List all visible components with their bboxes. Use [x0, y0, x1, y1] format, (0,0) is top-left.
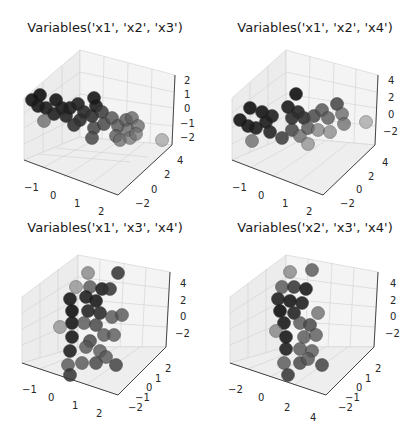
svg-text:0: 0 — [356, 184, 362, 195]
svg-text:−2: −2 — [175, 328, 190, 339]
svg-text:0: 0 — [50, 190, 56, 201]
svg-text:2: 2 — [96, 408, 102, 419]
svg-text:0: 0 — [184, 103, 190, 114]
x-axis-ticks: −1 0 1 2 — [24, 182, 104, 217]
z-axis-ticks: 4 2 0 −2 — [385, 278, 400, 339]
svg-text:0: 0 — [390, 311, 396, 322]
svg-text:−2: −2 — [338, 402, 353, 413]
svg-text:−2: −2 — [135, 198, 150, 209]
svg-text:0: 0 — [356, 382, 362, 393]
svg-text:1: 1 — [72, 400, 78, 411]
svg-text:4: 4 — [382, 157, 388, 168]
subplot-x1-x3-x4: Variables('x1', 'x3', 'x4') — [0, 217, 210, 434]
svg-text:2: 2 — [184, 75, 190, 86]
svg-text:−2: −2 — [128, 402, 143, 413]
svg-text:2: 2 — [388, 92, 394, 103]
svg-text:1: 1 — [74, 198, 80, 209]
z-axis-ticks: 4 2 0 −2 — [175, 278, 190, 339]
svg-text:1: 1 — [282, 198, 288, 209]
plot-3d-axes: 4 2 0 −2 −2 −1 0 1 2 −2 0 2 4 — [210, 217, 420, 434]
svg-text:2: 2 — [306, 206, 312, 217]
svg-text:−1: −1 — [22, 384, 37, 395]
z-axis-ticks: 2 1 0 −1 −2 — [180, 75, 195, 143]
svg-text:2: 2 — [368, 171, 374, 182]
svg-text:4: 4 — [390, 278, 396, 289]
subplot-x1-x2-x3: Variables('x1', 'x2', 'x3') — [0, 0, 210, 217]
plot-3d-axes: 2 1 0 −1 −2 −2 0 2 4 −1 0 1 2 — [0, 0, 210, 217]
svg-text:0: 0 — [151, 184, 157, 195]
svg-text:2: 2 — [165, 363, 171, 374]
x-axis-ticks: −1 0 1 2 — [232, 182, 312, 217]
x-axis-ticks: −2 0 2 4 — [228, 384, 316, 423]
x-axis-ticks: −1 0 1 2 — [22, 384, 102, 419]
svg-text:0: 0 — [180, 311, 186, 322]
svg-text:−2: −2 — [340, 198, 355, 209]
svg-text:−1: −1 — [24, 182, 39, 193]
svg-text:2: 2 — [390, 295, 396, 306]
svg-text:1: 1 — [155, 373, 161, 384]
plot-3d-axes: 4 2 0 −2 −2 −1 0 1 2 −1 0 1 2 — [0, 217, 210, 434]
svg-text:0: 0 — [146, 382, 152, 393]
svg-text:1: 1 — [184, 89, 190, 100]
z-axis-ticks: 4 2 0 −2 — [383, 75, 398, 137]
svg-text:−1: −1 — [232, 182, 247, 193]
svg-text:2: 2 — [375, 363, 381, 374]
svg-text:4: 4 — [177, 155, 183, 166]
svg-text:0: 0 — [258, 190, 264, 201]
svg-text:1: 1 — [365, 373, 371, 384]
subplot-x2-x3-x4: Variables('x2', 'x3', 'x4') — [210, 217, 420, 434]
svg-text:4: 4 — [388, 75, 394, 86]
svg-text:0: 0 — [258, 392, 264, 403]
svg-text:−2: −2 — [228, 384, 243, 395]
svg-text:0: 0 — [48, 392, 54, 403]
svg-text:4: 4 — [310, 412, 316, 423]
svg-text:−2: −2 — [385, 328, 400, 339]
svg-text:−2: −2 — [383, 126, 398, 137]
svg-text:4: 4 — [180, 278, 186, 289]
plot-3d-axes: 4 2 0 −2 −2 0 2 4 −1 0 1 2 — [210, 0, 420, 217]
svg-text:−2: −2 — [180, 132, 195, 143]
subplot-x1-x2-x4: Variables('x1', 'x2', 'x4') — [210, 0, 420, 217]
svg-text:2: 2 — [98, 206, 104, 217]
svg-text:2: 2 — [164, 169, 170, 180]
svg-text:−1: −1 — [180, 118, 195, 129]
svg-text:−1: −1 — [345, 392, 360, 403]
svg-text:2: 2 — [284, 402, 290, 413]
svg-text:0: 0 — [388, 109, 394, 120]
svg-text:2: 2 — [180, 295, 186, 306]
svg-text:−1: −1 — [135, 392, 150, 403]
